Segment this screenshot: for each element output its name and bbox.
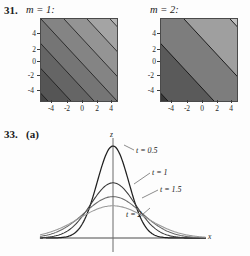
ytick-label: 0 <box>142 57 156 66</box>
curve-annotation-t15: t = 1.5 <box>160 185 182 194</box>
ytick-label: 4 <box>22 29 36 38</box>
ytick-mark <box>157 90 160 91</box>
xtick-label: 0 <box>75 104 89 113</box>
ytick-label: 2 <box>142 45 156 54</box>
xtick-label: -2 <box>60 104 74 113</box>
xtick-label: 2 <box>210 104 224 113</box>
annotation-leader-line <box>134 173 150 184</box>
ytick-mark <box>37 90 40 91</box>
annotation-leader-line <box>124 145 134 150</box>
ytick-label: -4 <box>20 86 34 95</box>
problem-33-part-label: (a) <box>26 128 39 140</box>
left-plot-title: m = 1: <box>26 4 55 15</box>
annotation-leader-line <box>142 208 150 215</box>
xtick-mark <box>171 100 172 103</box>
xtick-mark <box>82 100 83 103</box>
ytick-mark <box>37 61 40 62</box>
ytick-mark <box>37 49 40 50</box>
ytick-label: 4 <box>142 29 156 38</box>
ytick-label: 2 <box>22 45 36 54</box>
contour-frame-m2 <box>160 18 238 102</box>
contour-canvas-m2 <box>161 19 237 101</box>
curve-annotation-t05: t = 0.5 <box>136 146 158 155</box>
xtick-label: 2 <box>90 104 104 113</box>
ytick-mark <box>157 61 160 62</box>
heat-kernel-figure: z x t = 0.5 t = 1 t = 1.5 t = 2 <box>38 132 223 254</box>
xtick-mark <box>67 100 68 103</box>
vertical-axis-label: z <box>110 130 113 139</box>
heat-kernel-svg <box>38 132 223 254</box>
curve-annotation-t2: t = 2 <box>126 210 142 219</box>
xtick-mark <box>97 100 98 103</box>
ytick-mark <box>157 33 160 34</box>
xtick-label: -2 <box>180 104 194 113</box>
ytick-mark <box>157 75 160 76</box>
ytick-label: -2 <box>140 71 154 80</box>
xtick-mark <box>187 100 188 103</box>
problem-33-number: 33. <box>4 128 18 140</box>
horizontal-axis-label: x <box>208 232 211 241</box>
ytick-mark <box>37 75 40 76</box>
contour-frame-m1 <box>40 18 118 102</box>
xtick-label: -4 <box>164 104 178 113</box>
annotation-leader-line <box>142 190 158 198</box>
xtick-mark <box>51 100 52 103</box>
xtick-mark <box>111 100 112 103</box>
answer-key-page: 31. m = 1: m = 2: 4 2 0 -2 -4 <box>0 0 250 256</box>
xtick-label: 0 <box>195 104 209 113</box>
xtick-label: -4 <box>44 104 58 113</box>
heat-kernel-curve <box>40 197 205 238</box>
ytick-mark <box>37 33 40 34</box>
xtick-mark <box>231 100 232 103</box>
xtick-mark <box>217 100 218 103</box>
ytick-label: -2 <box>20 71 34 80</box>
ytick-label: 0 <box>22 57 36 66</box>
xtick-label: 4 <box>104 104 118 113</box>
right-plot-title: m = 2: <box>150 4 179 15</box>
ytick-mark <box>157 49 160 50</box>
curve-annotation-t1: t = 1 <box>152 168 168 177</box>
xtick-label: 4 <box>224 104 238 113</box>
contour-canvas-m1 <box>41 19 117 101</box>
ytick-label: -4 <box>140 86 154 95</box>
xtick-mark <box>202 100 203 103</box>
problem-31-number: 31. <box>4 4 18 16</box>
